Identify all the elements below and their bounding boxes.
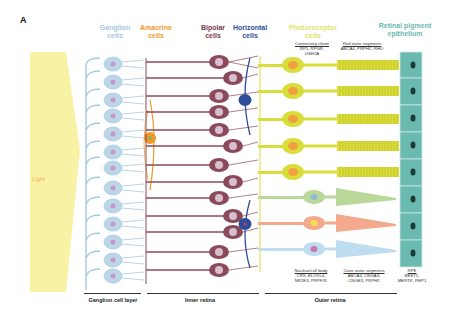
rod-photoreceptors — [258, 57, 399, 180]
ganglion-layer-bracket — [84, 293, 141, 294]
annotation-rod-outer-segments: Rod outer segments ABCA4, PRPH2, RHO — [337, 41, 387, 51]
annotation-rpe: RPE BEST1, MERTK, REP1 — [394, 268, 430, 283]
light-arrow — [30, 52, 80, 292]
label-inner-retina: Inner retina — [170, 297, 230, 303]
light-label: Light — [32, 176, 45, 182]
outer-retina-bracket — [265, 293, 397, 294]
annotation-nuclear-cell-body: Nuclear/cell body CRX, ELOVL4, NR2E3, PR… — [288, 268, 334, 283]
header-ganglion-cells: Ganglioncells — [95, 24, 135, 40]
annotation-cone-outer-segments: Cone outer segments ABCA4, CNGA3, CNGB3,… — [339, 268, 389, 283]
header-amacrine-cells: Amacrinecells — [136, 24, 176, 40]
annotation-connecting-cilium: Connecting cilium RP1, RPGR, USH2A — [292, 41, 332, 56]
label-outer-retina: Outer retina — [300, 297, 360, 303]
label-ganglion-cell-layer: Ganglion cell layer — [80, 297, 146, 303]
cone-photoreceptors — [258, 188, 396, 258]
bipolar-cells — [146, 55, 258, 284]
header-photoreceptor-cells: Photoreceptorcells — [283, 24, 343, 40]
ganglion-cells — [86, 58, 100, 290]
rpe-cells — [400, 52, 422, 267]
header-bipolar-cells: Bipolarcells — [196, 24, 230, 40]
header-rpe: Retinal pigmentepithelium — [370, 22, 440, 38]
inner-retina-bracket — [147, 293, 259, 294]
header-horizontal-cells: Horizontalcells — [228, 24, 272, 40]
horizontal-cells — [245, 58, 250, 268]
